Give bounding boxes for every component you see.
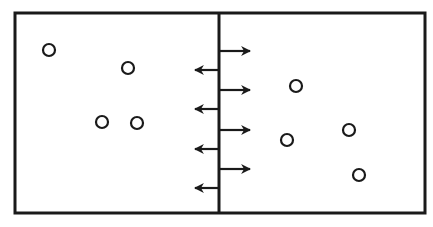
particle-circle (122, 62, 134, 74)
particle-circle (290, 80, 302, 92)
particle-circle (43, 44, 55, 56)
particle-circle (131, 117, 143, 129)
particle-circle (96, 116, 108, 128)
particle-circle (353, 169, 365, 181)
two-compartment-diagram (0, 0, 433, 227)
leftward-arrows (195, 70, 219, 188)
particle-circle (281, 134, 293, 146)
left-compartment-particles (43, 44, 143, 129)
right-compartment-particles (281, 80, 365, 181)
rightward-arrows (219, 51, 250, 169)
particle-circle (343, 124, 355, 136)
